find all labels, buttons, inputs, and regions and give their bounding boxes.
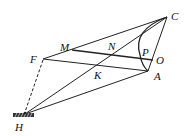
line-AH <box>25 71 148 114</box>
ground-hatch-icon <box>13 113 34 117</box>
label-P: P <box>141 46 149 58</box>
geometry-diagram: C M N P O F K A H <box>0 0 185 136</box>
label-N: N <box>107 40 116 52</box>
point-H <box>24 112 27 115</box>
label-M: M <box>59 41 70 53</box>
label-H: H <box>14 121 24 133</box>
label-K: K <box>93 69 102 81</box>
label-F: F <box>29 53 37 65</box>
line-FH-dashed <box>25 60 43 112</box>
label-O: O <box>156 54 164 66</box>
label-A: A <box>153 70 161 82</box>
label-C: C <box>171 10 179 22</box>
